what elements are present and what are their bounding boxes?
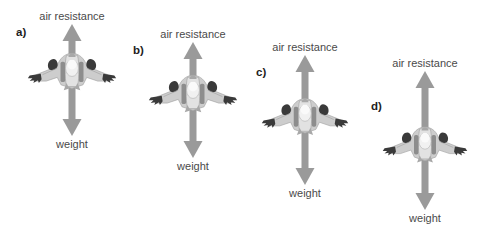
- aircraft-body: [383, 127, 467, 162]
- arrowhead-up: [416, 71, 435, 88]
- panel-index-d: d): [371, 100, 382, 112]
- arrowhead-down: [416, 193, 435, 210]
- air-resistance-label-d: air resistance: [392, 57, 457, 69]
- aircraft-d: [381, 120, 469, 166]
- force-diagram-figure: a)air resistanceweightb)air resistancewe…: [0, 0, 484, 237]
- weight-label-d: weight: [409, 212, 441, 224]
- force-diagram-panel-d: d)air resistanceweight: [0, 0, 484, 237]
